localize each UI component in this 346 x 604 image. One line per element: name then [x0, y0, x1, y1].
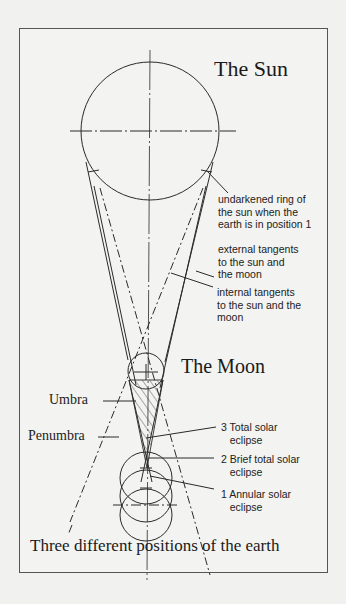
leader-internal-tangents [171, 273, 213, 287]
label-undarkened-ring: undarkened ring of the sun when the eart… [218, 193, 311, 231]
external-tangent-left [86, 162, 128, 360]
label-penumbra: Penumbra [28, 428, 85, 444]
label-position-1: 1 Annular solar eclipse [221, 488, 291, 513]
leader-undarkened-ring [207, 171, 228, 193]
label-external-tangents: external tangents to the sun and the moo… [218, 243, 299, 281]
leader-position-1 [150, 476, 214, 489]
caption: Three different positions of the earth [30, 536, 279, 556]
leader-position-3 [146, 427, 216, 438]
central-axis [147, 50, 150, 580]
label-umbra: Umbra [49, 392, 88, 408]
leader-external-tangents [196, 271, 214, 277]
moon-title: The Moon [181, 355, 265, 378]
sun-title: The Sun [214, 56, 288, 82]
label-internal-tangents: internal tangents to the sun and the moo… [217, 286, 301, 324]
label-position-2: 2 Brief total solar eclipse [221, 453, 300, 478]
label-position-3: 3 Total solar eclipse [221, 421, 277, 446]
